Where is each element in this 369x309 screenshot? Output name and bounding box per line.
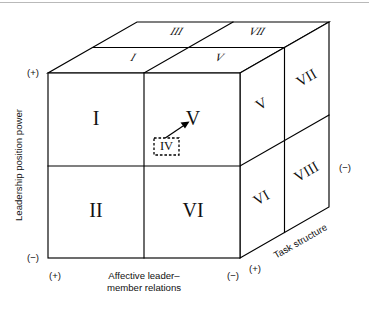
front-cell-I: I: [93, 107, 100, 129]
front-cell-V: V: [186, 107, 201, 129]
vertical-axis-label: Leadership position power: [13, 108, 24, 221]
vertical-axis-group: (+) (−) Leadership position power: [13, 67, 39, 263]
iv-label: IV: [160, 139, 173, 153]
horizontal-axis-group: (+) (−) Affective leader– member relatio…: [49, 270, 239, 293]
vertical-axis-minus: (−): [27, 252, 39, 263]
front-cell-II: II: [89, 199, 102, 221]
front-cell-VI: VI: [182, 199, 203, 221]
cube-diagram-svg: I V III VII V VI VII VIII I V II VI IV: [0, 0, 369, 309]
depth-axis-minus: (−): [339, 162, 351, 173]
horizontal-axis-minus: (−): [227, 270, 239, 281]
front-face-group: [48, 73, 240, 258]
horizontal-axis-plus: (+): [49, 270, 61, 281]
horizontal-axis-label-line2: member relations: [107, 282, 181, 293]
figure-root: I V III VII V VI VII VIII I V II VI IV: [0, 0, 369, 309]
horizontal-axis-label-line1: Affective leader–: [108, 270, 180, 281]
vertical-axis-plus: (+): [27, 67, 39, 78]
depth-axis-plus: (+): [249, 263, 261, 274]
